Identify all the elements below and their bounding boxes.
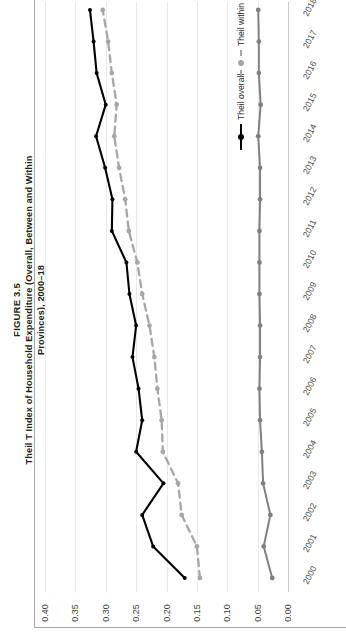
- legend-label: Theil overall: [236, 74, 246, 120]
- data-point: [257, 386, 262, 391]
- data-point: [110, 197, 114, 201]
- data-point: [100, 8, 105, 13]
- data-point: [94, 134, 98, 138]
- data-point: [258, 197, 263, 202]
- data-point: [106, 39, 111, 44]
- value-tick-label: 0.35: [58, 596, 92, 630]
- data-point: [92, 40, 96, 44]
- data-point: [110, 229, 114, 233]
- chart-legend: Theil overallTheil withinTheil between: [236, 0, 280, 150]
- data-point: [257, 292, 262, 297]
- value-tick-label: 0.10: [210, 596, 244, 630]
- data-point: [160, 449, 165, 454]
- data-point: [104, 103, 108, 107]
- legend-label: Theil within: [236, 3, 246, 46]
- legend-swatch-icon: [236, 50, 246, 76]
- legend-item-theil-within[interactable]: Theil within: [236, 3, 246, 76]
- data-point: [176, 481, 181, 486]
- value-tick-label: 0.25: [119, 596, 153, 630]
- data-point: [261, 481, 266, 486]
- data-point: [124, 260, 128, 264]
- data-point: [117, 165, 122, 170]
- data-point: [257, 228, 262, 233]
- data-point: [152, 355, 157, 360]
- data-point: [198, 576, 203, 581]
- data-point: [95, 71, 99, 75]
- data-point: [103, 166, 107, 170]
- data-point: [257, 260, 262, 265]
- data-point: [135, 260, 140, 265]
- figure-number: FIGURE 3.5: [11, 145, 22, 475]
- data-point: [258, 165, 263, 170]
- data-point: [134, 324, 138, 328]
- data-point: [134, 450, 138, 454]
- data-point: [140, 292, 145, 297]
- data-point: [140, 418, 144, 422]
- data-point: [126, 228, 131, 233]
- data-point: [194, 544, 199, 549]
- data-point: [112, 134, 117, 139]
- data-point: [114, 102, 119, 107]
- category-axis-ticks: 2000200120022003200420052006200720082009…: [306, 0, 346, 600]
- data-point: [109, 71, 114, 76]
- series-line-theil-within: [103, 10, 200, 578]
- data-point: [268, 512, 273, 517]
- data-point: [258, 323, 263, 328]
- data-point: [123, 197, 128, 202]
- legend-item-theil-overall[interactable]: Theil overall: [236, 74, 246, 150]
- figure-container: FIGURE 3.5 Theil T Index of Household Ex…: [0, 0, 346, 644]
- value-tick-label: 0.20: [150, 596, 184, 630]
- data-point: [130, 355, 134, 359]
- legend-swatch-icon: [236, 124, 246, 150]
- data-point: [137, 387, 141, 391]
- data-point: [270, 576, 275, 581]
- value-tick-label: 0.00: [271, 596, 305, 630]
- data-point: [179, 512, 184, 517]
- data-point: [151, 544, 155, 548]
- data-point: [183, 576, 187, 580]
- data-point: [127, 292, 131, 296]
- data-point: [259, 449, 264, 454]
- data-point: [155, 386, 160, 391]
- data-point: [258, 355, 263, 360]
- value-axis-ticks: 0.400.350.300.250.200.150.100.050.00: [36, 596, 308, 642]
- value-tick-label: 0.15: [180, 596, 214, 630]
- data-point: [159, 418, 164, 423]
- data-point: [258, 418, 263, 423]
- data-point: [161, 481, 165, 485]
- data-point: [261, 544, 266, 549]
- data-point: [88, 8, 92, 12]
- data-point: [147, 323, 152, 328]
- value-tick-label: 0.30: [89, 596, 123, 630]
- value-tick-label: 0.40: [28, 596, 62, 630]
- series-line-theil-overall: [90, 10, 185, 578]
- value-tick-label: 0.05: [241, 596, 275, 630]
- data-point: [140, 513, 144, 517]
